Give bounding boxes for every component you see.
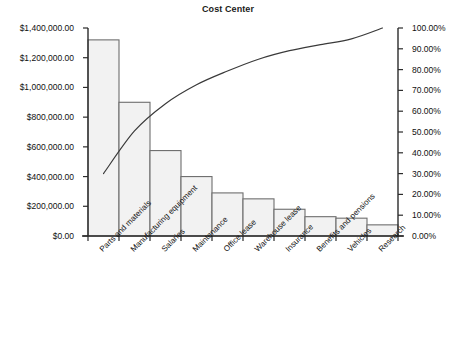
pareto-chart: Cost Center $0.00$200,000.00$400,000.00$… bbox=[0, 0, 456, 342]
bar-0 bbox=[88, 40, 119, 236]
plot-area bbox=[0, 0, 456, 342]
bar-3 bbox=[181, 177, 212, 236]
